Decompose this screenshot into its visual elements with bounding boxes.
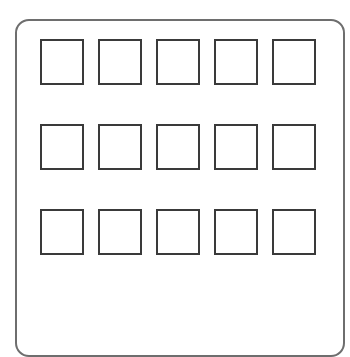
grid-slot-r3-c4[interactable] bbox=[214, 209, 258, 255]
grid-slot-r3-c3[interactable] bbox=[156, 209, 200, 255]
grid-slot-r3-c5[interactable] bbox=[272, 209, 316, 255]
grid-slot-r3-c2[interactable] bbox=[98, 209, 142, 255]
grid-slot-r1-c1[interactable] bbox=[40, 39, 84, 85]
slot-grid bbox=[40, 39, 316, 255]
grid-slot-r2-c3[interactable] bbox=[156, 124, 200, 170]
grid-slot-r2-c4[interactable] bbox=[214, 124, 258, 170]
grid-slot-r2-c5[interactable] bbox=[272, 124, 316, 170]
grid-slot-r2-c1[interactable] bbox=[40, 124, 84, 170]
grid-slot-r1-c2[interactable] bbox=[98, 39, 142, 85]
grid-slot-r1-c4[interactable] bbox=[214, 39, 258, 85]
grid-slot-r2-c2[interactable] bbox=[98, 124, 142, 170]
grid-slot-r1-c3[interactable] bbox=[156, 39, 200, 85]
grid-slot-r3-c1[interactable] bbox=[40, 209, 84, 255]
grid-slot-r1-c5[interactable] bbox=[272, 39, 316, 85]
